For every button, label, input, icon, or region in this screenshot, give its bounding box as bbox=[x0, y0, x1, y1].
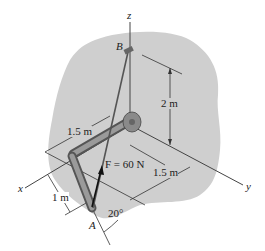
angle-label: 20° bbox=[108, 208, 123, 219]
z-axis-label: z bbox=[127, 10, 131, 21]
y-axis-label: y bbox=[246, 181, 251, 192]
dimension-1m: 1 m bbox=[52, 192, 69, 203]
point-a-label: A bbox=[89, 220, 96, 231]
x-axis-label: x bbox=[18, 183, 23, 194]
point-b-label: B bbox=[116, 41, 123, 52]
dimension-2m: 2 m bbox=[161, 98, 178, 109]
force-label: F = 60 N bbox=[105, 159, 145, 170]
statics-diagram bbox=[0, 0, 265, 251]
dimension-1-5m-y: 1.5 m bbox=[153, 167, 178, 178]
dimension-1-5m-pipe: 1.5 m bbox=[67, 126, 92, 137]
